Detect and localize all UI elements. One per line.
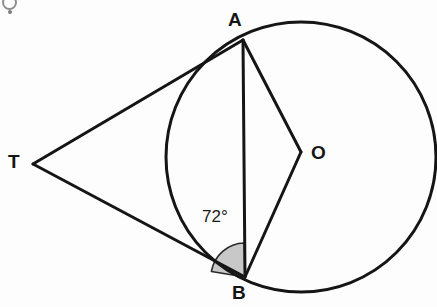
chord-line-ab [243, 40, 245, 277]
vertex-label-a: A [228, 10, 242, 29]
angle-measure-label: 72° [202, 208, 228, 225]
geometry-canvas [0, 0, 437, 307]
radius-line-oa [243, 40, 301, 152]
geometry-figure: A B T O 72° [0, 0, 437, 307]
vertex-label-b: B [232, 283, 246, 302]
tangent-line-ta [33, 40, 243, 164]
vertex-label-o: O [311, 143, 326, 162]
radius-line-ob [245, 152, 301, 277]
vertex-label-t: T [8, 152, 20, 171]
scan-artifact-dot [8, 10, 12, 14]
